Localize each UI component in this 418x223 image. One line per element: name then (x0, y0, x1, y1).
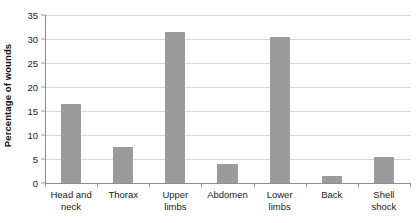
bar[interactable] (217, 164, 237, 183)
x-axis-category-label: Thorax (97, 189, 149, 201)
bar-slot (149, 15, 201, 183)
x-axis-category-label-line: Back (306, 189, 358, 201)
bar[interactable] (165, 32, 185, 183)
bar-slot (254, 15, 306, 183)
bar[interactable] (270, 37, 290, 183)
y-axis-tick-label: 35 (27, 10, 38, 21)
x-axis-tick-mark (306, 184, 307, 187)
x-axis-category-label: Back (306, 189, 358, 201)
bar-slot (306, 15, 358, 183)
x-axis-category-label-line: shock (358, 201, 410, 213)
y-axis-tick-label: 5 (33, 154, 38, 165)
y-axis-tick-label: 25 (27, 58, 38, 69)
x-axis-category-label: Abdomen (201, 189, 253, 201)
x-axis-tick-mark (358, 184, 359, 187)
x-axis-tick-mark (45, 184, 46, 187)
x-axis-tick-mark (410, 184, 411, 187)
x-axis-category-label-line: limbs (254, 201, 306, 213)
x-axis-category-label-line: Upper (149, 189, 201, 201)
x-axis-category-label: Upperlimbs (149, 189, 201, 212)
y-axis-tick-mark (41, 111, 45, 112)
x-axis-labels: Head andneckThoraxUpperlimbsAbdomenLower… (45, 184, 410, 223)
y-axis-tick-mark (41, 39, 45, 40)
y-axis-title-text: Percentage of wounds (3, 43, 14, 146)
y-axis-tick-mark (41, 135, 45, 136)
y-axis-tick-mark (41, 159, 45, 160)
x-axis-tick-mark (254, 184, 255, 187)
bar[interactable] (61, 104, 81, 183)
y-axis-tick-label: 20 (27, 82, 38, 93)
bar[interactable] (113, 147, 133, 183)
bar-chart: Percentage of wounds 05101520253035 Head… (0, 0, 418, 223)
x-axis-category-label: Shellshock (358, 189, 410, 212)
y-axis-tick-label: 30 (27, 34, 38, 45)
y-axis-tick-mark (41, 63, 45, 64)
x-axis-category-label: Lowerlimbs (254, 189, 306, 212)
y-axis-title: Percentage of wounds (0, 0, 16, 190)
x-axis-category-label-line: limbs (149, 201, 201, 213)
x-axis-category-label: Head andneck (45, 189, 97, 212)
bar-slot (201, 15, 253, 183)
bar-slot (97, 15, 149, 183)
x-axis-tick-mark (97, 184, 98, 187)
y-axis-tick-labels: 05101520253035 (16, 0, 42, 223)
x-axis-category-label-line: neck (45, 201, 97, 213)
y-axis-tick-mark (41, 15, 45, 16)
y-axis-tick-label: 15 (27, 106, 38, 117)
bar[interactable] (322, 176, 342, 183)
x-axis-category-label-line: Lower (254, 189, 306, 201)
bar-slot (358, 15, 410, 183)
y-axis-tick-mark (41, 183, 45, 184)
y-axis-tick-label: 0 (33, 178, 38, 189)
x-axis-category-label-line: Shell (358, 189, 410, 201)
y-axis-tick-label: 10 (27, 130, 38, 141)
x-axis-tick-mark (201, 184, 202, 187)
x-axis-category-label-line: Abdomen (201, 189, 253, 201)
bar-slot (45, 15, 97, 183)
x-axis-category-label-line: Thorax (97, 189, 149, 201)
x-axis-tick-mark (149, 184, 150, 187)
x-axis-category-label-line: Head and (45, 189, 97, 201)
y-axis-tick-mark (41, 87, 45, 88)
bar[interactable] (374, 157, 394, 183)
bars-layer (45, 15, 410, 183)
